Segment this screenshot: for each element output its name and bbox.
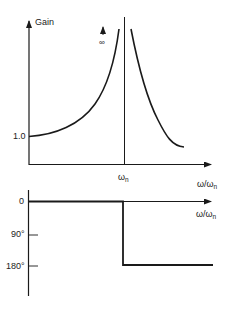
infinity-label: ∞ [99,38,105,48]
gain-tick-1: 1.0 [13,131,26,141]
phase-step-line [29,202,213,266]
gain-curve-above [131,29,184,147]
gain-x-axis-label: ω/ωn [197,179,217,192]
phase-tick-0: 0 [19,196,24,206]
chart-canvas [0,0,231,312]
phase-tick-90: 90° [11,229,25,239]
gain-axis-label: Gain [35,17,54,27]
phase-x-axis-label: ω/ωn [196,209,216,222]
resonance-tick-label: ωn [118,172,129,185]
gain-curve-below [29,29,119,137]
gain-plot [29,17,211,165]
phase-tick-180: 180° [6,261,25,271]
phase-plot [29,190,214,296]
